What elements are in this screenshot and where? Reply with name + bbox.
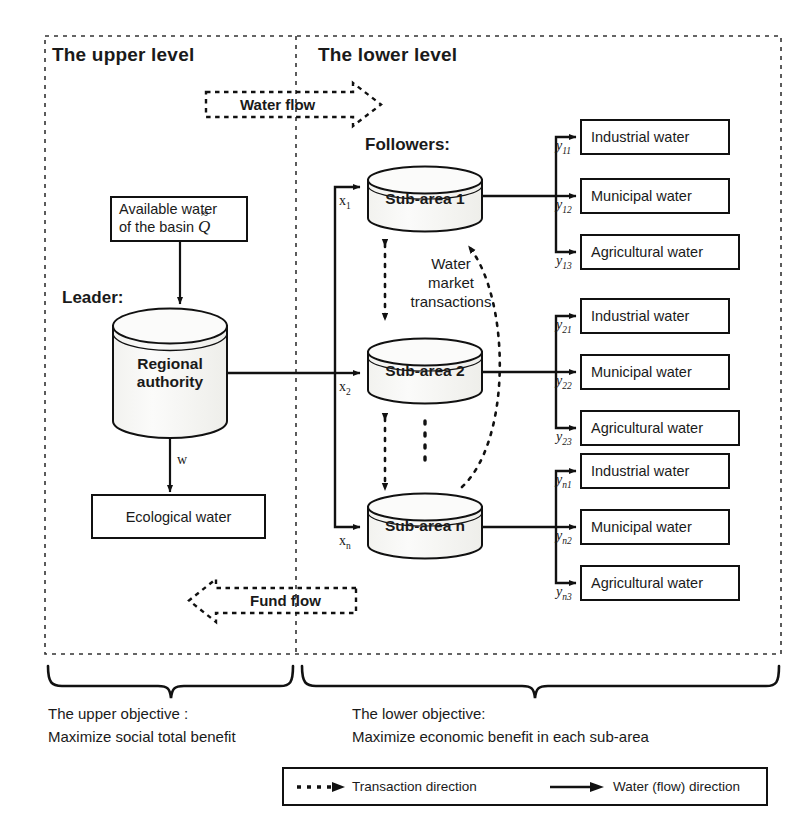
output-box-y22: Municipal water (580, 354, 730, 390)
ecological-water-box: Ecological water (91, 494, 266, 539)
output-label-y13: Agricultural water (591, 244, 703, 260)
output-var-yn2: yn2 (556, 528, 572, 547)
diagram-canvas: The upper level The lower level Water fl… (0, 0, 812, 822)
w-variable-label: w (177, 452, 187, 468)
output-box-y21: Industrial water (580, 298, 730, 334)
output-var-y13: y13 (556, 253, 572, 272)
output-var-yn3: yn3 (556, 584, 572, 603)
water-flow-label: Water flow (240, 96, 315, 113)
market-line1: Water (396, 255, 506, 274)
sub-area-n-label: Sub-area n (368, 517, 482, 535)
output-label-y12: Municipal water (591, 188, 692, 204)
sub-area-1-label: Sub-area 1 (368, 190, 482, 208)
upper-objective-brace (48, 666, 293, 698)
output-var-y21: y21 (556, 317, 572, 336)
output-label-yn3: Agricultural water (591, 575, 703, 591)
output-var-y23: y23 (556, 429, 572, 448)
inflow-x1-label: x1 (339, 193, 351, 212)
fund-flow-label: Fund flow (250, 592, 321, 609)
lower-objective-brace (302, 666, 779, 698)
leader-label: Leader: (62, 288, 123, 308)
upper-level-title: The upper level (52, 44, 194, 66)
regional-authority-label: Regional authority (113, 355, 227, 391)
lower-objective-line2: Maximize economic benefit in each sub-ar… (352, 725, 649, 748)
output-box-y23: Agricultural water (580, 410, 740, 446)
regional-authority-line1: Regional (113, 355, 227, 373)
lower-objective-text: The lower objective: Maximize economic b… (352, 702, 649, 749)
upper-objective-line1: The upper objective : (48, 702, 236, 725)
output-var-yn1: yn1 (556, 472, 572, 491)
output-label-y11: Industrial water (591, 129, 689, 145)
lower-objective-line1: The lower objective: (352, 702, 649, 725)
available-water-box: Available water of the basin ≈Q (110, 196, 248, 242)
inflow-x2-label: x2 (339, 379, 351, 398)
available-water-line2: of the basin ≈Q (119, 217, 210, 237)
water-distribution-trunk (335, 187, 360, 527)
output-box-yn2: Municipal water (580, 509, 730, 545)
ecological-water-label: Ecological water (126, 509, 232, 525)
output-var-y11: y11 (556, 138, 571, 157)
inflow-xn-label: xn (339, 533, 351, 552)
followers-label: Followers: (365, 135, 450, 155)
output-var-y22: y22 (556, 373, 572, 392)
output-box-yn3: Agricultural water (580, 565, 740, 601)
market-line2: market (396, 274, 506, 293)
output-box-y13: Agricultural water (580, 234, 740, 270)
output-var-y12: y12 (556, 197, 572, 216)
water-market-transactions-label: Water market transactions (396, 255, 506, 311)
output-box-y11: Industrial water (580, 119, 730, 155)
output-label-y22: Municipal water (591, 364, 692, 380)
legend-transaction-label: Transaction direction (352, 779, 477, 795)
q-tilde-symbol: ≈Q (198, 217, 210, 237)
output-box-y12: Municipal water (580, 178, 730, 214)
legend-water-label: Water (flow) direction (613, 779, 740, 795)
upper-objective-line2: Maximize social total benefit (48, 725, 236, 748)
output-box-yn1: Industrial water (580, 453, 730, 489)
output-label-yn2: Municipal water (591, 519, 692, 535)
sub-area-2-label: Sub-area 2 (368, 362, 482, 380)
output-label-y21: Industrial water (591, 308, 689, 324)
output-label-y23: Agricultural water (591, 420, 703, 436)
upper-objective-text: The upper objective : Maximize social to… (48, 702, 236, 749)
market-line3: transactions (396, 293, 506, 312)
regional-authority-line2: authority (113, 373, 227, 391)
lower-level-title: The lower level (318, 44, 457, 66)
output-label-yn1: Industrial water (591, 463, 689, 479)
